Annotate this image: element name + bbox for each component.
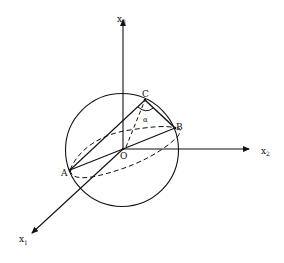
x1-axis xyxy=(32,149,123,233)
label-O: O xyxy=(120,151,127,161)
segment-CB xyxy=(145,100,175,128)
point-C xyxy=(144,99,147,102)
x1-label: x1 xyxy=(19,234,28,246)
point-O xyxy=(122,148,124,150)
x2-label: x2 xyxy=(261,146,270,157)
segment-OA xyxy=(70,149,123,170)
label-alpha: α xyxy=(143,116,148,124)
x3-label: x3 xyxy=(117,14,126,25)
point-A xyxy=(69,169,72,172)
label-C: C xyxy=(142,89,149,99)
sphere-diagram: x3 x2 x1 O A B C α xyxy=(0,0,284,263)
angle-alpha-arc xyxy=(138,107,153,111)
label-A: A xyxy=(60,168,68,178)
label-B: B xyxy=(176,122,183,132)
